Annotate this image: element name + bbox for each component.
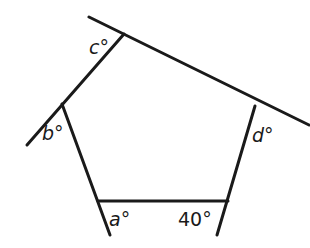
label-d: d°: [252, 124, 274, 146]
label-c: c°: [89, 36, 109, 58]
pentagon-diagram: c° b° d° a° 40°: [0, 0, 310, 248]
top-extended-line: [89, 17, 309, 125]
label-40: 40°: [178, 208, 212, 230]
left-lower-extended-line: [62, 104, 110, 235]
label-b: b°: [42, 122, 64, 144]
right-extended-line: [217, 106, 255, 235]
label-a: a°: [109, 208, 130, 230]
